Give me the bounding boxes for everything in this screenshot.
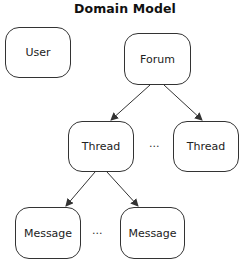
- threads-ellipsis: ...: [149, 137, 160, 150]
- node-thread-2-label: Thread: [187, 140, 225, 153]
- edge-forum-thread-2: [164, 85, 202, 120]
- node-forum: Forum: [124, 33, 191, 85]
- node-message-1: Message: [15, 207, 81, 259]
- edge-thread-message-2: [107, 172, 138, 206]
- messages-ellipsis: ...: [92, 224, 103, 237]
- node-user-label: User: [25, 46, 50, 59]
- edge-thread-message-1: [66, 172, 95, 206]
- node-thread-1-label: Thread: [82, 140, 120, 153]
- node-message-2-label: Message: [128, 227, 176, 240]
- node-thread-2: Thread: [173, 121, 239, 172]
- node-thread-1: Thread: [68, 121, 134, 172]
- node-user: User: [5, 27, 71, 78]
- node-message-2: Message: [120, 207, 185, 259]
- edge-forum-thread-1: [111, 85, 150, 120]
- node-message-1-label: Message: [24, 227, 72, 240]
- node-forum-label: Forum: [140, 53, 175, 66]
